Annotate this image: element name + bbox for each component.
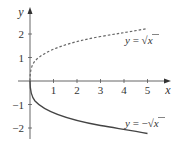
x-tick-label-1: 1 — [51, 84, 57, 96]
x-axis-label: x — [164, 83, 171, 97]
lower-curve-label: y = −√x — [124, 117, 159, 129]
sqrt-plot: 1 2 3 4 5 2 1 −1 −2 x y y = √x y = −√x — [0, 0, 179, 145]
y-tick-label-neg2: −2 — [12, 122, 24, 134]
y-tick-label-1: 1 — [19, 52, 25, 64]
y-tick-label-2: 2 — [19, 28, 25, 40]
x-tick-label-3: 3 — [98, 84, 104, 96]
y-axis-label: y — [17, 5, 24, 19]
y-axis-arrow-icon — [28, 7, 33, 14]
x-tick-label-2: 2 — [74, 84, 80, 96]
x-tick-label-4: 4 — [121, 84, 127, 96]
y-tick-label-neg1: −1 — [12, 99, 24, 111]
upper-curve-label: y = √x — [124, 34, 153, 46]
x-tick-label-5: 5 — [145, 84, 151, 96]
